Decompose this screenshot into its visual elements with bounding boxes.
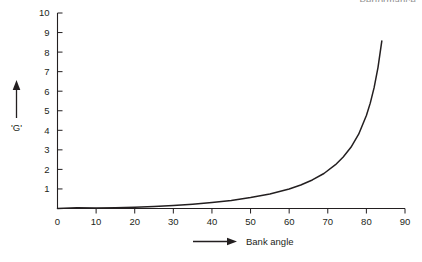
x-tick-label-70: 70 — [322, 216, 333, 227]
x-tick-labels: 0102030405060708090 — [55, 216, 410, 227]
x-tick-label-10: 10 — [91, 216, 102, 227]
x-tick-label-0: 0 — [55, 216, 60, 227]
performance-chart: Performance 12345678910 0102030405060708… — [0, 0, 422, 262]
y-tick-label-1: 1 — [44, 183, 49, 194]
y-tick-label-10: 10 — [39, 7, 50, 18]
y-tick-label-4: 4 — [44, 125, 49, 136]
y-tick-label-5: 5 — [44, 105, 49, 116]
y-tick-label-8: 8 — [44, 47, 49, 58]
x-tick-label-30: 30 — [168, 216, 179, 227]
y-tick-label-3: 3 — [44, 144, 49, 155]
y-tick-label-2: 2 — [44, 164, 49, 175]
y-tick-label-6: 6 — [44, 86, 49, 97]
x-tick-label-90: 90 — [400, 216, 411, 227]
corner-title: Performance — [359, 0, 416, 2]
chart-svg: 12345678910 0102030405060708090 'G' Bank… — [0, 0, 422, 262]
y-tick-marks — [58, 13, 63, 189]
x-tick-label-40: 40 — [207, 216, 218, 227]
y-axis-up-arrow — [13, 80, 21, 118]
y-tick-labels: 12345678910 — [39, 7, 50, 194]
x-tick-label-60: 60 — [284, 216, 295, 227]
x-tick-label-20: 20 — [129, 216, 140, 227]
y-axis-group: 12345678910 — [39, 7, 63, 208]
x-axis-title: Bank angle — [246, 236, 294, 247]
x-tick-marks — [96, 209, 405, 214]
x-tick-label-50: 50 — [245, 216, 256, 227]
y-tick-label-9: 9 — [44, 27, 49, 38]
series-group — [58, 41, 382, 209]
y-axis-title: 'G' — [11, 122, 22, 133]
y-tick-label-7: 7 — [44, 66, 49, 77]
x-axis-group: 0102030405060708090 — [55, 209, 410, 227]
series-line-load-factor — [58, 41, 382, 209]
x-tick-label-80: 80 — [361, 216, 372, 227]
x-axis-right-arrow — [193, 238, 237, 246]
